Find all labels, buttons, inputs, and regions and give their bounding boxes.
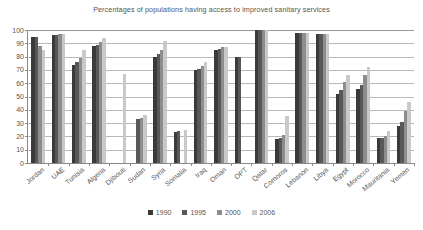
bar (82, 50, 85, 163)
bar-group (28, 30, 48, 163)
x-axis-tick-mark (414, 163, 415, 166)
y-axis-labels: 0102030405060708090100 (0, 30, 24, 163)
y-axis-tick-label: 100 (0, 27, 24, 34)
bar (184, 130, 187, 163)
bar (177, 131, 180, 163)
legend-item: 2006 (252, 209, 276, 216)
bar (204, 62, 207, 163)
bar-group (130, 30, 150, 163)
bar-group (150, 30, 170, 163)
bar (387, 131, 390, 163)
bar (238, 57, 241, 163)
bar (326, 34, 329, 163)
y-axis-tick-label: 0 (0, 160, 24, 167)
y-axis-tick-label: 20 (0, 133, 24, 140)
legend-label: 1995 (190, 209, 206, 216)
bar (285, 116, 288, 163)
legend-label: 1990 (156, 209, 172, 216)
bar (346, 75, 349, 163)
bar-group (272, 30, 292, 163)
bar-group (170, 30, 190, 163)
y-axis-tick-label: 60 (0, 80, 24, 87)
legend-swatch-icon (252, 210, 257, 215)
bar-group (373, 30, 393, 163)
chart-legend: 1990199520002006 (0, 209, 423, 216)
bar-group (109, 30, 129, 163)
y-axis-tick-label: 40 (0, 106, 24, 113)
legend-item: 2000 (217, 209, 241, 216)
legend-swatch-icon (182, 210, 187, 215)
y-axis-tick-label: 10 (0, 146, 24, 153)
bar-group (89, 30, 109, 163)
legend-label: 2006 (260, 209, 276, 216)
y-axis-tick-label: 70 (0, 66, 24, 73)
bars-layer (28, 30, 413, 163)
x-axis-labels: JordanUAETunisiaAlgeriaDjiboutiSudanSyri… (28, 166, 413, 206)
bar (62, 34, 65, 163)
bar-group (353, 30, 373, 163)
bar (367, 67, 370, 163)
y-axis-tick-label: 50 (0, 93, 24, 100)
y-axis-tick-label: 30 (0, 120, 24, 127)
legend-item: 1995 (182, 209, 206, 216)
legend-swatch-icon (217, 210, 222, 215)
bar (42, 50, 45, 163)
bar-group (48, 30, 68, 163)
bar-group (231, 30, 251, 163)
bar (265, 30, 268, 163)
bar-group (191, 30, 211, 163)
bar-group (251, 30, 271, 163)
bar-group (394, 30, 414, 163)
bar-chart: Percentages of populations having access… (0, 0, 423, 230)
bar-group (312, 30, 332, 163)
bar-group (211, 30, 231, 163)
bar (102, 38, 105, 163)
bar-group (333, 30, 353, 163)
legend-item: 1990 (148, 209, 172, 216)
bar (407, 102, 410, 163)
bar-group (69, 30, 89, 163)
bar (163, 41, 166, 163)
legend-swatch-icon (148, 210, 153, 215)
y-axis-tick-label: 80 (0, 53, 24, 60)
bar-group (292, 30, 312, 163)
bar (123, 74, 126, 163)
bar (143, 115, 146, 163)
bar (224, 47, 227, 163)
y-axis-tick-label: 90 (0, 40, 24, 47)
legend-label: 2000 (225, 209, 241, 216)
bar (306, 33, 309, 163)
chart-title: Percentages of populations having access… (0, 5, 423, 14)
